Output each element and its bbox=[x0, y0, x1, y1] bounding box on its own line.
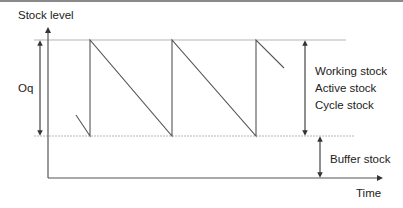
working-stock-label: Working stock bbox=[315, 66, 387, 78]
y-axis-label: Stock level bbox=[18, 10, 74, 22]
cycle-stock-label: Cycle stock bbox=[315, 100, 374, 112]
stock-sawtooth-line bbox=[76, 40, 284, 136]
buffer-stock-label: Buffer stock bbox=[330, 154, 391, 166]
x-axis-label: Time bbox=[356, 188, 381, 200]
active-stock-label: Active stock bbox=[315, 83, 376, 95]
order-quantity-label: Oq bbox=[18, 83, 33, 95]
